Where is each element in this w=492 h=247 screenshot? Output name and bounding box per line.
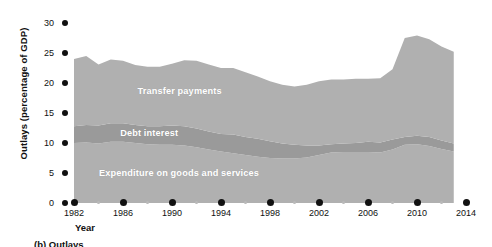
y-tick-20: 20: [0, 77, 72, 89]
y-tick-10: 10: [0, 137, 72, 149]
x-tick-dot-icon: [316, 199, 323, 206]
x-tick-label: 2014: [446, 208, 486, 218]
y-tick-30: 30: [0, 17, 72, 29]
x-tick-minor-dot-icon: [195, 201, 198, 204]
x-tick-minor-dot-icon: [97, 201, 100, 204]
x-tick-minor-dot-icon: [342, 201, 345, 204]
x-tick-minor-dot-icon: [244, 201, 247, 204]
y-axis-label: Outlays (percentage of GDP): [18, 9, 29, 179]
x-tick-dot-icon: [218, 199, 225, 206]
y-tick-label: 20: [30, 77, 54, 89]
x-tick-label: 2006: [348, 208, 388, 218]
figure-outlays-area-chart: Outlays (percentage of GDP) 051015202530…: [0, 0, 492, 247]
y-tick-label: 5: [30, 167, 54, 179]
y-tick-15: 15: [0, 107, 72, 119]
y-tick-dot-icon: [62, 170, 68, 176]
x-tick-label: 1994: [201, 208, 241, 218]
x-tick-dot-icon: [414, 199, 421, 206]
y-tick-label: 10: [30, 137, 54, 149]
x-tick-dot-icon: [71, 199, 78, 206]
y-tick-label: 15: [30, 107, 54, 119]
y-tick-dot-icon: [62, 20, 68, 26]
x-tick-label: 1986: [103, 208, 143, 218]
x-tick-dot-icon: [120, 199, 127, 206]
y-tick-dot-icon: [62, 140, 68, 146]
band-label-0: Transfer payments: [137, 86, 221, 96]
y-tick-dot-icon: [62, 110, 68, 116]
y-tick-label: 25: [30, 47, 54, 59]
x-tick-minor-dot-icon: [146, 201, 149, 204]
x-tick-minor-dot-icon: [293, 201, 296, 204]
x-tick-minor-dot-icon: [440, 201, 443, 204]
x-tick-label: 1982: [54, 208, 94, 218]
band-label-2: Expenditure on goods and services: [99, 168, 259, 178]
y-tick-dot-icon: [62, 200, 68, 206]
x-tick-label: 2002: [299, 208, 339, 218]
figure-caption: (b) Outlays: [34, 239, 84, 247]
y-tick-dot-icon: [62, 80, 68, 86]
y-tick-label: 0: [30, 197, 54, 209]
x-tick-dot-icon: [463, 199, 470, 206]
x-tick-minor-dot-icon: [391, 201, 394, 204]
y-tick-5: 5: [0, 167, 72, 179]
x-tick-dot-icon: [365, 199, 372, 206]
x-tick-label: 1998: [250, 208, 290, 218]
y-tick-25: 25: [0, 47, 72, 59]
y-tick-label: 30: [30, 17, 54, 29]
x-tick-dot-icon: [169, 199, 176, 206]
y-tick-dot-icon: [62, 50, 68, 56]
x-tick-dot-icon: [267, 199, 274, 206]
x-tick-label: 1990: [152, 208, 192, 218]
x-axis-label: Year: [50, 222, 120, 233]
x-tick-label: 2010: [397, 208, 437, 218]
band-label-1: Debt interest: [120, 128, 178, 138]
